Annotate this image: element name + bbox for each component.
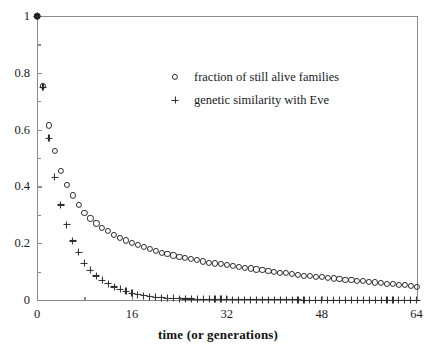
legend-circle-icon	[168, 70, 182, 84]
chart-legend: fraction of still alive families genetic…	[0, 0, 436, 349]
legend-plus-icon	[168, 93, 182, 107]
legend-item-pluses: genetic similarity with Eve	[168, 93, 329, 107]
x-axis-title: time (or generations)	[0, 327, 436, 343]
legend-label-circles: fraction of still alive families	[194, 71, 339, 84]
legend-item-circles: fraction of still alive families	[168, 70, 339, 84]
chart-figure: 00.20.40.60.81016324864 fraction of stil…	[0, 0, 436, 349]
legend-label-pluses: genetic similarity with Eve	[194, 94, 329, 107]
